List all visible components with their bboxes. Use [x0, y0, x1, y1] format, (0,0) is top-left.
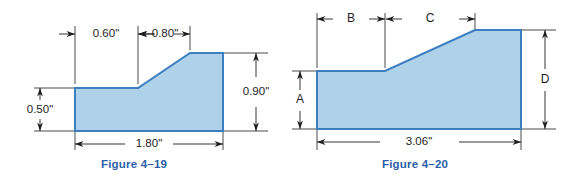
- dimension-top-right-fig2: C: [386, 11, 475, 25]
- profile-shape-fig2: [317, 30, 521, 129]
- dimension-left-height-fig1: 0.50": [27, 88, 53, 131]
- dimension-label-top-left-fig2: B: [347, 11, 355, 25]
- dimension-right-height-fig2: D: [541, 30, 550, 129]
- figure-4-20-group: B C A D: [292, 11, 556, 150]
- dimension-label-top-left-fig1: 0.60": [93, 27, 119, 39]
- dimension-top-left-fig2: B: [317, 11, 385, 25]
- dimension-label-top-right-fig1: 0.80": [152, 27, 178, 39]
- dimension-label-left-height-fig2: A: [296, 92, 304, 106]
- dimension-bottom-width-fig1: 1.80": [75, 137, 223, 149]
- dimension-label-right-height-fig1: 0.90": [243, 85, 269, 97]
- dimension-label-bottom-width-fig1: 1.80": [136, 137, 162, 149]
- dimension-right-height-fig1: 0.90": [243, 53, 269, 131]
- dimension-label-right-height-fig2: D: [541, 72, 550, 86]
- profile-shape-fig1: [75, 53, 223, 131]
- dimension-label-bottom-width-fig2: 3.06": [406, 135, 432, 147]
- figure-caption-4-20: Figure 4–20: [382, 158, 448, 170]
- dimension-top-right-fig1: 0.80": [139, 27, 190, 39]
- dimension-bottom-width-fig2: 3.06": [317, 135, 521, 147]
- drawings-svg: 0.60" 0.80" 0.50" 0.90": [0, 0, 563, 181]
- technical-drawing-sheet: 0.60" 0.80" 0.50" 0.90": [0, 0, 563, 181]
- dimension-label-left-height-fig1: 0.50": [27, 103, 53, 115]
- dimension-top-left-fig1: 0.60": [59, 27, 154, 39]
- figure-4-19-group: 0.60" 0.80" 0.50" 0.90": [27, 26, 269, 150]
- dimension-label-top-right-fig2: C: [426, 11, 435, 25]
- figure-caption-4-19: Figure 4–19: [101, 158, 167, 170]
- dimension-left-height-fig2: A: [296, 71, 304, 129]
